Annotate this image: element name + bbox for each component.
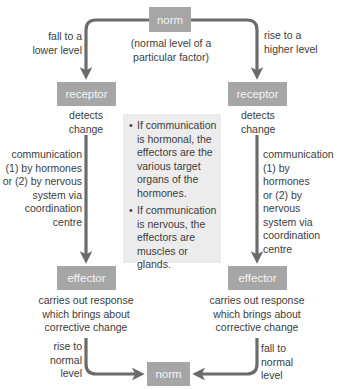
communication-left: communication (1) by hormones or (2) by … [0, 148, 82, 229]
feedback-diagram: norm (normal level of a particular facto… [0, 0, 338, 390]
info-box: • If communication is hormonal, the effe… [123, 114, 221, 263]
effector-box-right: effector [228, 266, 287, 290]
detects-change-right: detects change [241, 109, 301, 136]
fall-normal-label: fall to normal level [261, 342, 313, 383]
bullet-icon: • [129, 204, 133, 218]
effector-box-left: effector [57, 266, 116, 290]
arrow-left-effector-to-norm [86, 338, 139, 374]
receptor-box-right: receptor [228, 82, 287, 106]
response-right: carries out response which brings about … [197, 294, 317, 335]
arrow-right-effector-to-norm [198, 338, 257, 374]
fall-lower-label: fall to a lower level [20, 30, 82, 57]
communication-right: communication (1) by hormones or (2) by … [263, 148, 338, 256]
response-left: carries out response which brings about … [26, 294, 146, 335]
info-list: • If communication is hormonal, the effe… [129, 119, 217, 272]
rise-higher-label: rise to a higher level [264, 29, 338, 56]
norm-box-bottom: norm [147, 362, 190, 386]
info-item-nervous: • If communication is nervous, the effec… [129, 204, 217, 272]
bullet-icon: • [129, 119, 133, 133]
norm-top-label: norm [157, 14, 183, 26]
norm-box-top: norm [149, 7, 191, 32]
receptor-box-left: receptor [57, 82, 116, 106]
info-item-hormonal: • If communication is hormonal, the effe… [129, 119, 217, 200]
detects-change-left: detects change [56, 109, 116, 136]
norm-caption: (normal level of a particular factor) [116, 37, 226, 64]
rise-normal-label: rise to normal level [30, 340, 82, 381]
